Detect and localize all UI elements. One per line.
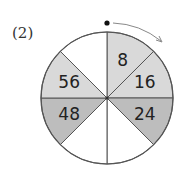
segment-value: 48 <box>58 104 80 124</box>
segment-value: 16 <box>134 72 156 92</box>
wheel-center <box>105 96 108 99</box>
number-wheel: 816244856 <box>0 0 185 172</box>
start-dot-icon <box>104 20 109 25</box>
segment-value: 56 <box>58 72 80 92</box>
segment-value: 24 <box>134 104 156 124</box>
segment-value: 8 <box>117 50 128 70</box>
